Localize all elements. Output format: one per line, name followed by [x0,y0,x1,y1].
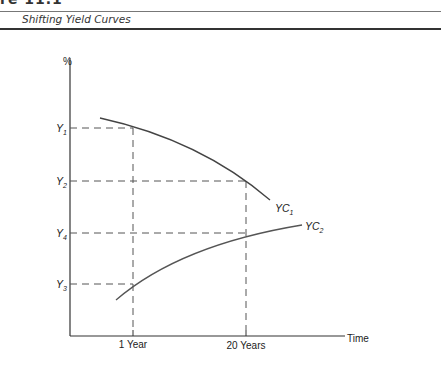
label-y2: Y2 [56,175,67,189]
label-y4: Y4 [56,227,67,241]
label-y1: Y1 [56,122,67,136]
curve-yc2 [116,225,302,300]
x-axis-label: Time [347,333,369,344]
dashed-guides [70,128,246,330]
yield-curve-chart: % Y1 Y2 Y4 Y3 YC1 YC2 1 Year 20 Years Ti… [0,0,441,365]
label-yc1: YC1 [275,202,294,216]
label-1-year: 1 Year [119,339,148,350]
label-20-years: 20 Years [227,340,266,351]
label-y3: Y3 [56,278,67,292]
y-axis-label: % [63,56,72,67]
label-yc2: YC2 [305,220,324,234]
curve-yc1 [100,118,270,200]
